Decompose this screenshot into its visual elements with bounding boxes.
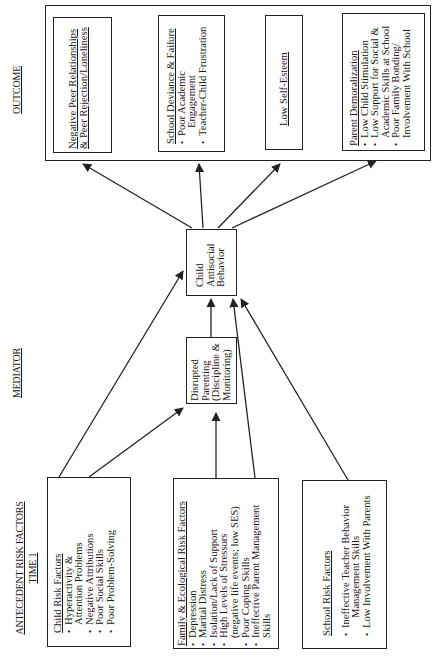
parent-demoralization-list: Low Child Stimulation Low Support for So… [360, 26, 413, 146]
family-risk-factors-box: Family & Ecological Risk Factors Depress… [173, 478, 279, 649]
arrow-antisocial-peer [83, 164, 192, 228]
school-deviance-list: Poor Academic Engagement Teacher-Child F… [177, 27, 209, 144]
school-deviance-box: School Deviance & Failure Poor Academic … [158, 15, 225, 152]
disrupted-line: Monitoring) [222, 343, 233, 401]
list-item: Poor Problem-Solving [106, 530, 117, 633]
arrow-child-disrupted [89, 408, 183, 477]
mediator-label: MEDIATOR [11, 348, 22, 398]
list-item: (negative life events; low SES) [230, 501, 241, 646]
antisocial-line: Behavior [216, 243, 227, 287]
child-risk-factors-box: Child Risk Factors Hyperactivity & Atten… [47, 477, 131, 647]
parent-demoralization-title: Parent Demoralization [349, 26, 360, 146]
disrupted-line: Disrupted [190, 343, 201, 401]
family-risk-factors-title: Family & Ecological Risk Factors [177, 501, 188, 646]
list-item: Skills [262, 501, 273, 646]
peer-title-line2: & Peer Rejection/Loneliness [79, 27, 90, 149]
school-risk-factors-content: School Risk Factors Ineffective Teacher … [322, 495, 372, 636]
low-self-esteem-title: Low Self-Esteem [279, 52, 290, 126]
peer-title-line1: Negative Peer Relationships [68, 27, 79, 149]
family-risk-factors-content: Family & Ecological Risk Factors Depress… [177, 501, 272, 646]
child-antisocial-behavior-box: Child Antisocial Behavior [186, 229, 237, 296]
list-item: Low Involvement With Parents [362, 495, 373, 636]
school-risk-list: Ineffective Teacher Behavior Management … [341, 495, 373, 636]
arrow-school-antisocial [241, 299, 348, 480]
arrow-antisocial-school [199, 164, 203, 228]
child-risk-list: Hyperactivity & Attention Problems Negat… [64, 530, 117, 633]
antecedent-label-group: ANTECEDENT RISK FACTORS TIME 1 [14, 490, 38, 646]
child-antisocial-behavior-text: Child Antisocial Behavior [195, 243, 227, 287]
child-risk-factors-title: Child Risk Factors [53, 530, 64, 633]
family-risk-list: Depression Marital Distress Isolation/La… [188, 501, 273, 646]
outcome-label: OUTCOME [11, 66, 22, 114]
school-deviance-content: School Deviance & Failure Poor Academic … [166, 27, 208, 144]
parent-demoralization-content: Parent Demoralization Low Child Stimulat… [349, 26, 413, 146]
arrow-child-antisocial [59, 271, 183, 477]
list-item: Involvement With School [402, 26, 413, 146]
arrow-antisocial-esteem [218, 164, 280, 228]
school-deviance-title: School Deviance & Failure [166, 27, 177, 144]
peer-relationships-box: Negative Peer Relationships & Peer Rejec… [53, 17, 112, 153]
list-item: Teacher-Child Frustration [198, 27, 209, 144]
school-risk-factors-title: School Risk Factors [322, 495, 333, 636]
antecedent-label: ANTECEDENT RISK FACTORS [14, 490, 25, 646]
arrow-antisocial-parent [232, 161, 376, 228]
disrupted-parenting-box: Disrupted Parenting (Discipline & Monito… [186, 337, 237, 404]
antisocial-line: Child [195, 243, 206, 287]
child-risk-factors-content: Child Risk Factors Hyperactivity & Atten… [53, 530, 117, 633]
disrupted-parenting-text: Disrupted Parenting (Discipline & Monito… [190, 343, 232, 401]
parent-demoralization-box: Parent Demoralization Low Child Stimulat… [342, 13, 425, 151]
peer-relationships-title: Negative Peer Relationships & Peer Rejec… [68, 27, 89, 149]
time-label: TIME 1 [27, 490, 38, 646]
school-risk-factors-box: School Risk Factors Ineffective Teacher … [302, 480, 387, 649]
low-self-esteem-box: Low Self-Esteem [265, 15, 303, 150]
